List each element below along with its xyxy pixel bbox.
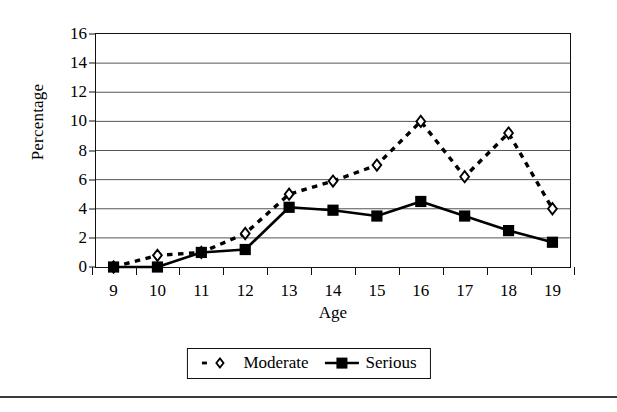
x-axis-tick-label: 12 (237, 281, 254, 301)
x-axis-tick-mark (574, 267, 575, 275)
y-axis-tick-mark (89, 237, 96, 238)
y-axis-tick-mark (89, 63, 96, 64)
legend-item-moderate: Moderate (200, 353, 308, 373)
plot-area: 0246810121416910111213141516171819 (95, 33, 571, 268)
series-serious (108, 196, 558, 273)
x-axis-tick-mark (487, 267, 488, 275)
y-axis-tick-label: 6 (79, 170, 88, 190)
data-point-marker-square (327, 205, 338, 216)
data-point-marker-diamond (460, 171, 469, 182)
legend-label-moderate: Moderate (243, 353, 308, 373)
chart-figure: Percentage 02468101214169101112131415161… (0, 0, 617, 412)
y-axis-tick-mark (89, 179, 96, 180)
x-axis-tick-mark (136, 267, 137, 275)
data-point-marker-square (371, 210, 382, 221)
solid-square-line-icon (323, 355, 361, 371)
x-axis-tick-mark (267, 267, 268, 275)
series-moderate (109, 116, 557, 273)
y-axis-tick-label: 12 (70, 82, 87, 102)
y-axis-title: Percentage (28, 22, 48, 222)
x-axis-tick-label: 11 (193, 281, 209, 301)
y-axis-tick-mark (89, 121, 96, 122)
x-axis-tick-label: 13 (281, 281, 298, 301)
y-axis-tick-label: 8 (79, 141, 88, 161)
y-axis-tick-mark (89, 34, 96, 35)
data-point-marker-square (415, 196, 426, 207)
data-point-marker-square (284, 202, 295, 213)
data-point-marker-diamond (241, 228, 250, 239)
y-axis-tick-label: 16 (70, 24, 87, 44)
y-axis-tick-label: 2 (79, 228, 88, 248)
x-axis-tick-label: 19 (544, 281, 561, 301)
y-axis-tick-label: 4 (79, 199, 88, 219)
series-line (114, 121, 553, 267)
x-axis-tick-mark (531, 267, 532, 275)
x-axis-tick-label: 14 (325, 281, 342, 301)
data-point-marker-diamond (329, 175, 338, 186)
legend-item-serious: Serious (323, 353, 417, 373)
x-axis-tick-label: 15 (368, 281, 385, 301)
data-point-marker-diamond (373, 159, 382, 170)
data-point-marker-diamond (153, 250, 162, 261)
data-point-marker-square (108, 261, 119, 272)
x-axis-tick-mark (92, 267, 93, 275)
x-axis-tick-mark (179, 267, 180, 275)
dotted-diamond-line-icon (200, 355, 238, 371)
bottom-divider (0, 396, 617, 398)
y-axis-tick-label: 14 (70, 53, 87, 73)
data-point-marker-square (547, 237, 558, 248)
x-axis-tick-label: 9 (109, 281, 118, 301)
x-axis-title: Age (95, 303, 571, 323)
data-series-layer (96, 34, 570, 267)
y-axis-tick-mark (89, 208, 96, 209)
data-point-marker-square (196, 247, 207, 258)
y-axis-tick-mark (89, 150, 96, 151)
x-axis-tick-mark (223, 267, 224, 275)
y-axis-tick-label: 10 (70, 111, 87, 131)
y-axis-tick-label: 0 (79, 257, 88, 277)
x-axis-tick-mark (311, 267, 312, 275)
x-axis-tick-mark (355, 267, 356, 275)
y-axis-tick-mark (89, 92, 96, 93)
data-point-marker-square (503, 225, 514, 236)
data-point-marker-square (459, 210, 470, 221)
chart-legend: Moderate Serious (186, 348, 430, 379)
x-axis-tick-label: 10 (149, 281, 166, 301)
x-axis-tick-label: 16 (412, 281, 429, 301)
data-point-marker-square (240, 244, 251, 255)
x-axis-tick-label: 18 (500, 281, 517, 301)
legend-label-serious: Serious (366, 353, 417, 373)
x-axis-tick-mark (443, 267, 444, 275)
data-point-marker-square (152, 261, 163, 272)
x-axis-tick-label: 17 (456, 281, 473, 301)
x-axis-tick-mark (399, 267, 400, 275)
